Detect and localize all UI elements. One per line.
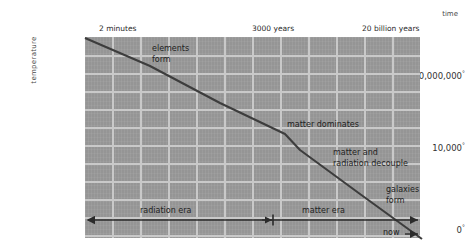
horizontal-gridline <box>85 235 420 237</box>
horizontal-gridline <box>85 73 420 75</box>
annotation-matter-dominates: matter dominates <box>287 120 359 131</box>
horizontal-gridline <box>85 109 420 111</box>
vertical-gridline <box>196 37 198 238</box>
horizontal-gridline <box>85 55 420 57</box>
era-label-matter: matter era <box>302 206 345 215</box>
horizontal-gridline <box>85 91 420 93</box>
annotation-matter-radiation-decouple: matter and radiation decouple <box>333 148 408 169</box>
era-label-radiation: radiation era <box>140 206 191 215</box>
horizontal-gridline <box>85 217 420 219</box>
vertical-gridline <box>252 37 254 238</box>
vertical-gridline <box>280 37 282 238</box>
vertical-gridline <box>224 37 226 238</box>
vertical-gridline <box>392 37 394 238</box>
plot-area <box>85 37 420 238</box>
temperature-time-chart: temperature time 100,000,000° 10,000° 0°… <box>0 0 465 249</box>
horizontal-gridline <box>85 127 420 129</box>
horizontal-gridline <box>85 145 420 147</box>
x-tick-label-2-minutes: 2 minutes <box>99 24 137 33</box>
horizontal-gridline <box>85 199 420 201</box>
annotation-galaxies-form: galaxies form <box>386 185 419 206</box>
vertical-gridline <box>112 37 114 238</box>
annotation-elements-form: elements form <box>152 44 189 65</box>
vertical-gridline <box>364 37 366 238</box>
now-label: now <box>383 228 400 237</box>
x-axis-title: time <box>442 10 458 18</box>
x-tick-label-20-billion-years: 20 billion years <box>362 24 419 33</box>
y-axis-title: temperature <box>30 20 38 100</box>
horizontal-gridline <box>85 181 420 183</box>
x-tick-label-3000-years: 3000 years <box>252 24 294 33</box>
